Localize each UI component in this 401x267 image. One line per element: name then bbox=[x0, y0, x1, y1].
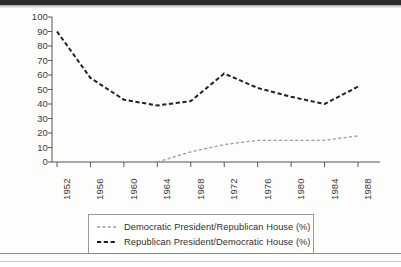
page-separator-rule-secondary bbox=[0, 261, 401, 262]
legend-item-republican-president: Republican President/Democratic House (%… bbox=[97, 234, 307, 249]
line-chart: 0102030405060708090100 19521956196019641… bbox=[0, 8, 401, 253]
x-axis-tick-label: 1980 bbox=[295, 178, 306, 200]
chart-legend: Democratic President/Republican House (%… bbox=[88, 214, 314, 254]
page-separator-rule bbox=[0, 253, 401, 254]
legend-dash-light-icon bbox=[97, 222, 117, 232]
series-line-democratic-president bbox=[157, 136, 358, 162]
x-axis-tick-labels: 1952195619601964196819721976198019841988 bbox=[0, 164, 401, 214]
x-axis-tick-label: 1956 bbox=[94, 178, 105, 200]
x-axis-tick-label: 1984 bbox=[329, 178, 340, 200]
x-axis-tick-label: 1960 bbox=[128, 178, 139, 200]
legend-label-republican-president: Republican President/Democratic House (%… bbox=[124, 237, 311, 247]
legend-label-democratic-president: Democratic President/Republican House (%… bbox=[124, 222, 311, 232]
x-axis-tick-label: 1968 bbox=[195, 178, 206, 200]
legend-dash-dark-icon bbox=[97, 237, 117, 247]
x-axis-tick-label: 1976 bbox=[262, 178, 273, 200]
page-canvas: 0102030405060708090100 19521956196019641… bbox=[0, 0, 401, 267]
axis-lines bbox=[48, 17, 380, 167]
x-axis-tick-label: 1964 bbox=[161, 178, 172, 200]
x-axis-tick-label: 1988 bbox=[362, 178, 373, 200]
legend-item-democratic-president: Democratic President/Republican House (%… bbox=[97, 219, 307, 234]
x-axis-tick-label: 1972 bbox=[228, 178, 239, 200]
series-line-republican-president bbox=[57, 32, 358, 106]
x-axis-tick-label: 1952 bbox=[61, 178, 72, 200]
